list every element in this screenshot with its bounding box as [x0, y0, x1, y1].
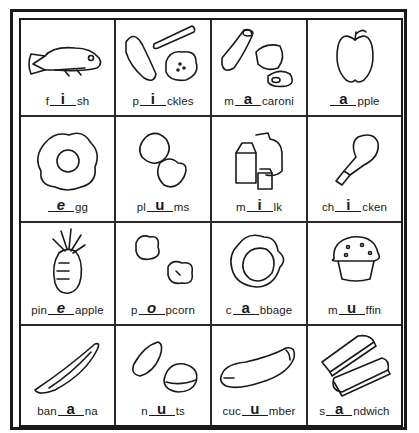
word-prefix: m: [328, 304, 338, 316]
pickles-icon: [120, 24, 206, 90]
word-prefix: m: [236, 201, 246, 213]
answer-blank[interactable]: e: [48, 198, 74, 212]
sandwich-icon: [312, 330, 398, 396]
cell-chicken: chicken: [308, 117, 401, 223]
word-suffix: cken: [362, 201, 387, 213]
word-suffix: ffin: [366, 304, 382, 316]
word-prefix: f: [46, 95, 49, 107]
word-suffix: ndwich: [353, 405, 389, 417]
word-prefix: p: [131, 304, 138, 316]
answer-blank[interactable]: a: [58, 402, 84, 416]
banana-icon: [25, 334, 111, 400]
answer-blank[interactable]: i: [335, 198, 361, 212]
word-prefix: cuc: [223, 405, 241, 417]
word-suffix: lk: [274, 201, 283, 213]
answer-blank[interactable]: i: [140, 92, 166, 106]
answer-blank[interactable]: e: [48, 301, 74, 315]
word-suffix: na: [85, 405, 98, 417]
pineapple-icon: [25, 229, 111, 295]
word-suffix: mber: [269, 405, 296, 417]
cabbage-icon: [216, 229, 302, 295]
word-prefix: m: [224, 95, 234, 107]
answer-blank[interactable]: i: [50, 92, 76, 106]
word-prefix: c: [226, 304, 232, 316]
word-suffix: ckles: [167, 95, 194, 107]
word-suffix: gg: [75, 201, 88, 213]
cell-apple: apple: [308, 20, 401, 117]
word-prefix: ban: [37, 405, 57, 417]
answer-blank[interactable]: a: [326, 402, 352, 416]
cell-sandwich: sandwich: [308, 326, 401, 425]
answer-blank[interactable]: i: [247, 198, 273, 212]
answer-blank[interactable]: o: [139, 301, 165, 315]
word-suffix: pple: [357, 95, 379, 107]
word-prefix: s: [319, 405, 325, 417]
answer-blank[interactable]: a: [330, 92, 356, 106]
word-suffix: pcorn: [166, 304, 195, 316]
cell-nuts: nuts: [116, 326, 212, 425]
macaroni-icon: [216, 24, 302, 90]
word-suffix: ms: [174, 201, 190, 213]
cell-muffin: muffin: [308, 223, 401, 326]
apple-icon: [312, 24, 398, 90]
plums-icon: [120, 127, 206, 193]
answer-blank[interactable]: a: [233, 301, 259, 315]
cell-popcorn: popcorn: [116, 223, 212, 326]
egg-icon: [25, 127, 111, 193]
word-suffix: sh: [77, 95, 89, 107]
word-suffix: caroni: [262, 95, 294, 107]
word-suffix: bbage: [260, 304, 292, 316]
answer-blank[interactable]: a: [235, 92, 261, 106]
cell-egg: egg: [21, 117, 116, 223]
worksheet-grid: fish pickles macaroni apple: [19, 18, 403, 427]
word-prefix: p: [132, 95, 139, 107]
cucumber-icon: [216, 334, 302, 400]
cell-milk: milk: [212, 117, 308, 223]
word-prefix: n: [141, 405, 148, 417]
cell-cucumber: cucumber: [212, 326, 308, 425]
cell-macaroni: macaroni: [212, 20, 308, 117]
answer-blank[interactable]: u: [149, 402, 175, 416]
fish-icon: [25, 24, 111, 90]
word-prefix: ch: [322, 201, 334, 213]
word-prefix: pl: [137, 201, 146, 213]
word-suffix: ts: [176, 405, 185, 417]
chicken-leg-icon: [312, 127, 398, 193]
word-suffix: apple: [75, 304, 104, 316]
cell-banana: banana: [21, 326, 116, 425]
milk-icon: [216, 127, 302, 193]
cell-cabbage: cabbage: [212, 223, 308, 326]
answer-blank[interactable]: u: [339, 301, 365, 315]
cell-fish: fish: [21, 20, 116, 117]
word-prefix: pin: [31, 304, 47, 316]
answer-blank[interactable]: u: [242, 402, 268, 416]
nuts-icon: [120, 334, 206, 400]
cell-plums: plums: [116, 117, 212, 223]
cell-pickles: pickles: [116, 20, 212, 117]
popcorn-icon: [120, 229, 206, 295]
muffin-icon: [312, 229, 398, 295]
answer-blank[interactable]: u: [147, 198, 173, 212]
cell-pineapple: pineapple: [21, 223, 116, 326]
